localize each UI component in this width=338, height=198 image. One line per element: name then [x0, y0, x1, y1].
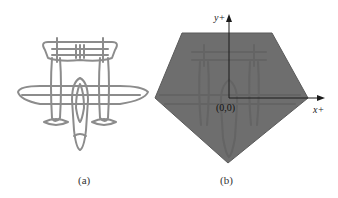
- y-axis-arrow-icon: [226, 14, 232, 22]
- y-axis-label: y+: [214, 12, 225, 23]
- pentagon-diagram: [0, 0, 338, 198]
- panel-b: y+ x+ (0,0) (b): [0, 0, 338, 198]
- caption-b: (b): [220, 174, 233, 186]
- x-axis-arrow-icon: [317, 95, 325, 101]
- origin-label: (0,0): [216, 102, 235, 113]
- x-axis-label: x+: [313, 104, 324, 115]
